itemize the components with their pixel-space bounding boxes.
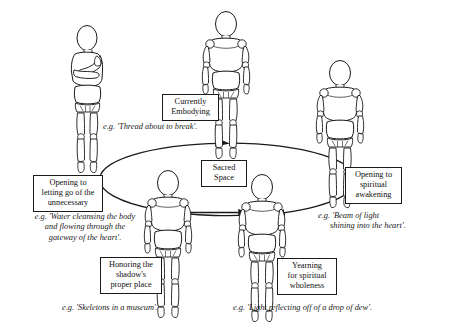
example-water: e.g. 'Water cleansing the body and flowi… <box>16 212 154 243</box>
yearning-wholeness-line-2: for spiritual <box>282 271 332 281</box>
currently-embodying-line-1: Currently <box>167 97 214 107</box>
honoring-shadow-line-1: Honoring the <box>105 260 157 270</box>
example-water-line-1: e.g. 'Water cleansing the body <box>16 212 154 222</box>
yearning-wholeness-line-3: wholeness <box>282 281 332 291</box>
example-beam-line-1: e.g. 'Beam of light <box>318 211 406 221</box>
example-skeletons-line-1: e.g. 'Skeletons in a museum'. <box>62 303 158 313</box>
label-box-yearning-wholeness[interactable]: Yearning for spiritual wholeness <box>277 258 337 295</box>
example-thread: e.g. 'Thread about to break'. <box>103 122 197 132</box>
figure-top-left-arms-crossed <box>71 26 102 173</box>
sacred-space-line-2: Space <box>206 173 242 183</box>
label-box-currently-embodying[interactable]: Currently Embodying <box>162 94 219 121</box>
opening-letting-go-line-3: unnecessary <box>38 198 98 208</box>
currently-embodying-line-2: Embodying <box>167 107 214 117</box>
example-dew-line-1: e.g. 'Light reflecting off of a drop of … <box>233 303 372 313</box>
opening-spiritual-line-3: awakening <box>350 190 397 200</box>
opening-spiritual-line-1: Opening to <box>350 170 397 180</box>
figure-top-center <box>202 12 249 159</box>
example-water-line-2: and flowing through the <box>16 222 154 232</box>
honoring-shadow-line-2: shadow's <box>105 270 157 280</box>
example-skeletons: e.g. 'Skeletons in a museum'. <box>62 303 158 313</box>
yearning-wholeness-line-1: Yearning <box>282 261 332 271</box>
figure-bottom-right <box>238 175 285 322</box>
opening-letting-go-line-2: letting go of the <box>38 188 98 198</box>
opening-letting-go-line-1: Opening to <box>38 178 98 188</box>
honoring-shadow-line-3: proper place <box>105 280 157 290</box>
label-box-honoring-shadow[interactable]: Honoring the shadow's proper place <box>100 257 162 294</box>
figure-bottom-left <box>144 171 191 318</box>
example-beam-line-2: shining into the heart'. <box>318 221 406 231</box>
example-water-line-3: gateway of the heart'. <box>16 233 154 243</box>
label-box-opening-letting-go[interactable]: Opening to letting go of the unnecessary <box>33 175 103 212</box>
example-dew: e.g. 'Light reflecting off of a drop of … <box>233 303 372 313</box>
sacred-space-line-1: Sacred <box>206 163 242 173</box>
label-box-sacred-space[interactable]: Sacred Space <box>201 160 247 187</box>
example-thread-line-1: e.g. 'Thread about to break'. <box>103 122 197 132</box>
opening-spiritual-line-2: spiritual <box>350 180 397 190</box>
example-beam: e.g. 'Beam of light shining into the hea… <box>318 211 406 232</box>
diagram-canvas: Currently Embodying Sacred Space Opening… <box>0 0 450 328</box>
label-box-opening-spiritual-awakening[interactable]: Opening to spiritual awakening <box>345 167 402 204</box>
